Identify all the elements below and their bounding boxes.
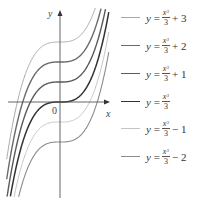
legend-equation: y =x33+ 2 — [146, 36, 186, 55]
legend-equation: y =x33− 2 — [146, 147, 186, 166]
legend-item: y =x33− 2 — [119, 144, 199, 170]
legend-item: y =x33− 1 — [119, 116, 199, 142]
curve-1 — [7, 9, 101, 180]
curves-group — [7, 8, 109, 197]
legend-equation: y =x33− 1 — [146, 119, 186, 138]
legend-swatch — [121, 17, 140, 18]
legend-swatch — [121, 101, 140, 102]
curve-0 — [7, 8, 96, 159]
legend-equation: y =x33 — [146, 92, 172, 111]
legend-swatch — [121, 73, 140, 74]
legend-item: y =x33+ 2 — [119, 33, 199, 59]
legend-equation: y =x33+ 3 — [146, 8, 186, 27]
x-axis-arrow-icon — [104, 100, 110, 105]
curve-5 — [19, 52, 109, 197]
legend-equation: y =x33+ 1 — [146, 64, 186, 83]
legend-item: y =x33+ 1 — [119, 61, 199, 87]
legend-swatch — [121, 128, 140, 129]
legend-item: y =x33+ 3 — [119, 5, 199, 31]
legend-item: y =x33 — [119, 89, 199, 115]
origin-label: 0 — [52, 105, 57, 116]
y-axis-arrow-icon — [58, 10, 63, 16]
legend-swatch — [121, 45, 140, 46]
legend: y =x33+ 3y =x33+ 2y =x33+ 1y =x33y =x33−… — [119, 0, 199, 206]
y-axis-label: y — [47, 8, 53, 19]
curve-4 — [14, 32, 109, 197]
x-axis-label: x — [105, 108, 111, 119]
legend-swatch — [121, 156, 140, 157]
